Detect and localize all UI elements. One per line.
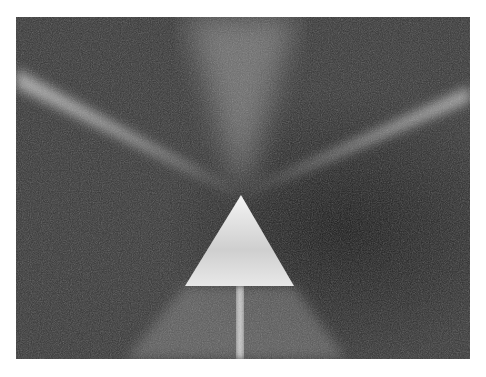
prism-light-illustration <box>16 17 470 359</box>
prism-photo <box>16 17 470 359</box>
